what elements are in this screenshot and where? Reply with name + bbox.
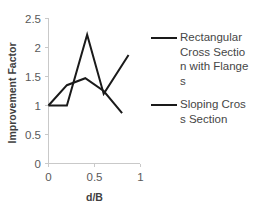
chart-legend: Rectangular Cross Section with Flanges S… [151, 30, 253, 135]
legend-item-label: Sloping Cross Section [180, 97, 250, 126]
y-axis-title: Improvement Factor [6, 43, 18, 144]
y-tick-label: 0 [35, 158, 41, 170]
series-line-rectangular-cross-section-with-flanges [49, 35, 129, 106]
x-tick-label: 1 [137, 171, 143, 183]
legend-item[interactable]: Rectangular Cross Section with Flanges [151, 30, 253, 88]
y-tick-label: 2.5 [25, 13, 41, 25]
legend-line-swatch-icon [151, 37, 177, 39]
x-tick-label: 0.5 [87, 171, 103, 183]
y-tick-label: 1.5 [25, 71, 41, 83]
y-tick-label: 0.5 [25, 129, 41, 141]
legend-line-swatch-icon [151, 104, 177, 106]
y-axis-ticks [45, 19, 49, 164]
y-tick-label: 1 [35, 100, 41, 112]
chart-figure: 2.5 2 1.5 1 0.5 0 0 0.5 1 d/B Improvemen… [0, 0, 253, 217]
y-tick-label: 2 [35, 42, 41, 54]
x-axis-title: d/B [86, 191, 103, 203]
legend-item-label: Rectangular Cross Section with Flanges [180, 30, 250, 88]
legend-item[interactable]: Sloping Cross Section [151, 97, 253, 126]
x-axis-ticks [49, 164, 141, 168]
x-tick-label: 0 [45, 171, 51, 183]
